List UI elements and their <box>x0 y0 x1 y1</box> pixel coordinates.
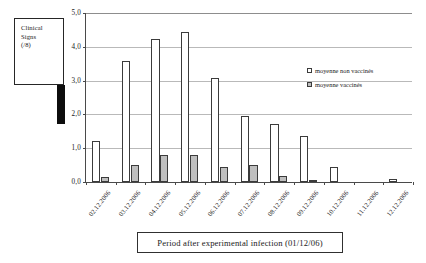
x-axis-tick-label: 04.12.2006 <box>147 189 171 217</box>
bar-cluster <box>175 13 205 182</box>
x-axis-tick-label: 02.12.2006 <box>88 189 112 217</box>
bar-vaccines <box>249 165 257 182</box>
x-axis-tick-label: 11.12.2006 <box>355 189 379 217</box>
legend-swatch <box>307 82 312 87</box>
bar-non-vaccines <box>151 39 159 182</box>
bar-non-vaccines <box>181 32 189 182</box>
bar-cluster <box>294 13 324 182</box>
bar-vaccines <box>220 167 228 182</box>
x-axis-tick-mark <box>205 182 206 185</box>
bar-vaccines <box>131 165 139 182</box>
x-axis-tick-label: 09.12.2006 <box>296 189 320 217</box>
x-axis-tick-label: 10.12.2006 <box>325 189 349 217</box>
bar-cluster <box>116 13 146 182</box>
x-axis-tick-label: 07.12.2006 <box>236 189 260 217</box>
bar-cluster <box>145 13 175 182</box>
bar-group <box>86 13 412 182</box>
x-axis-tick-mark <box>264 182 265 185</box>
bar-non-vaccines <box>241 116 249 182</box>
x-axis-tick-mark <box>145 182 146 185</box>
x-axis-tick-label: 12.12.2006 <box>385 189 409 217</box>
y-axis-label-line-1: Clinical <box>21 24 59 33</box>
legend-label: moyenne vaccinés <box>315 79 362 90</box>
y-axis-tick-label: 4,0 <box>71 43 81 51</box>
bar-non-vaccines <box>211 78 219 182</box>
bar-cluster <box>86 13 116 182</box>
x-axis-tick-mark <box>175 182 176 185</box>
chart-legend: moyenne non vaccinésmoyenne vaccinés <box>307 65 373 93</box>
x-axis-tick-mark <box>86 182 87 185</box>
x-axis-tick-label: 03.12.2006 <box>117 189 141 217</box>
bar-vaccines <box>279 176 287 182</box>
bar-cluster <box>235 13 265 182</box>
x-axis-tick-mark <box>354 182 355 185</box>
y-axis-label-line-3: (/8) <box>21 41 59 50</box>
legend-item: moyenne vaccinés <box>307 79 373 90</box>
bar-non-vaccines <box>389 179 397 182</box>
x-axis-tick-label: 08.12.2006 <box>266 189 290 217</box>
chart-plot-wrapper: 0,01,02,03,04,05,0 02.12.200603.12.20060… <box>85 13 412 183</box>
y-axis-label-line-2: Signs <box>21 33 59 42</box>
y-axis-tick-label: 5,0 <box>71 9 81 17</box>
legend-item: moyenne non vaccinés <box>307 65 373 76</box>
bar-vaccines <box>309 180 317 182</box>
bar-vaccines <box>190 155 198 182</box>
bar-cluster <box>205 13 235 182</box>
x-axis-tick-label: 05.12.2006 <box>177 189 201 217</box>
x-axis-tick-mark <box>116 182 117 185</box>
y-axis-tick-label: 1,0 <box>71 144 81 152</box>
y-axis-tick-label: 2,0 <box>71 110 81 118</box>
bar-cluster <box>383 13 413 182</box>
x-axis-tick-mark <box>294 182 295 185</box>
bar-cluster <box>264 13 294 182</box>
x-axis-tick-mark <box>413 182 414 185</box>
bar-non-vaccines <box>330 167 338 182</box>
legend-swatch <box>307 68 312 73</box>
bar-cluster <box>354 13 384 182</box>
bar-non-vaccines <box>92 141 100 182</box>
bar-vaccines <box>160 155 168 182</box>
x-axis-tick-mark <box>235 182 236 185</box>
bar-non-vaccines <box>122 61 130 182</box>
bar-non-vaccines <box>270 124 278 182</box>
bar-cluster <box>324 13 354 182</box>
x-axis-tick-label: 06.12.2006 <box>206 189 230 217</box>
legend-label: moyenne non vaccinés <box>315 65 373 76</box>
x-axis-caption-text: Period after experimental infection (01/… <box>157 238 322 248</box>
x-axis-tick-mark <box>383 182 384 185</box>
y-axis-tick-label: 0,0 <box>71 178 81 186</box>
y-axis-tick-label: 3,0 <box>71 77 81 85</box>
chart-plot-area: 0,01,02,03,04,05,0 <box>85 13 412 183</box>
y-axis-label-box: Clinical Signs (/8) <box>14 18 64 85</box>
x-axis-tick-mark <box>324 182 325 185</box>
bar-non-vaccines <box>300 136 308 182</box>
x-axis-caption-box: Period after experimental infection (01/… <box>137 232 343 253</box>
bar-vaccines <box>101 177 109 182</box>
y-axis-label-leader-bar <box>57 85 65 124</box>
